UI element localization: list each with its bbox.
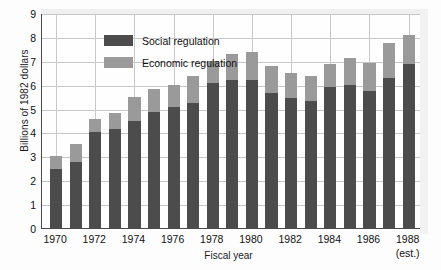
bar-segment-economic[interactable] xyxy=(128,97,140,121)
bar-segment-social[interactable] xyxy=(246,80,258,228)
bar-group[interactable] xyxy=(109,113,121,228)
bar-segment-social[interactable] xyxy=(168,107,180,228)
scan-artifact-right xyxy=(420,9,428,234)
bar-segment-economic[interactable] xyxy=(70,144,82,162)
x-tick-label: 1980 xyxy=(231,233,271,245)
bar-group[interactable] xyxy=(168,85,180,228)
y-tick-label: 3 xyxy=(6,151,36,163)
bar-segment-social[interactable] xyxy=(344,85,356,228)
legend-swatch-economic xyxy=(104,57,133,68)
bar-segment-economic[interactable] xyxy=(285,73,297,98)
legend-item[interactable]: Social regulation xyxy=(104,32,237,49)
x-tick-label: 1984 xyxy=(309,233,349,245)
y-tick-label: 0 xyxy=(6,223,36,235)
bar-segment-economic[interactable] xyxy=(363,63,375,90)
bar-group[interactable] xyxy=(226,54,238,228)
bar-group[interactable] xyxy=(383,43,395,228)
x-tick-label: 1978 xyxy=(192,233,232,245)
bar-segment-economic[interactable] xyxy=(344,58,356,84)
bar-segment-social[interactable] xyxy=(403,64,415,228)
bar-segment-social[interactable] xyxy=(109,129,121,228)
x-tick-label: 1982 xyxy=(270,233,310,245)
legend-label: Economic regulation xyxy=(142,57,237,69)
bar-group[interactable] xyxy=(207,61,219,228)
bar-group[interactable] xyxy=(70,144,82,228)
bar-segment-economic[interactable] xyxy=(305,76,317,101)
bar-segment-social[interactable] xyxy=(148,112,160,228)
y-tick-label: 7 xyxy=(6,56,36,68)
bar-segment-social[interactable] xyxy=(89,132,101,228)
y-tick-label: 4 xyxy=(6,127,36,139)
y-tick-label: 2 xyxy=(6,175,36,187)
bar-segment-economic[interactable] xyxy=(265,66,277,93)
x-tick-label: 1976 xyxy=(153,233,193,245)
bar-group[interactable] xyxy=(344,58,356,228)
bar-segment-social[interactable] xyxy=(70,162,82,228)
y-tick-label: 1 xyxy=(6,199,36,211)
bar-segment-social[interactable] xyxy=(226,80,238,228)
bar-group[interactable] xyxy=(246,52,258,228)
bar-segment-economic[interactable] xyxy=(324,64,336,87)
x-tick-label: 1986 xyxy=(348,233,388,245)
bar-group[interactable] xyxy=(285,73,297,228)
bar-segment-economic[interactable] xyxy=(246,52,258,79)
bar-group[interactable] xyxy=(187,76,199,228)
chart-legend: Social regulationEconomic regulation xyxy=(104,32,237,76)
bar-segment-social[interactable] xyxy=(363,91,375,228)
bar-segment-economic[interactable] xyxy=(109,113,121,129)
bar-group[interactable] xyxy=(50,156,62,228)
bar-segment-social[interactable] xyxy=(50,169,62,228)
plot-area: Social regulationEconomic regulation xyxy=(41,14,420,229)
bar-segment-social[interactable] xyxy=(128,121,140,229)
bar-group[interactable] xyxy=(128,97,140,228)
x-tick-label: 1988 xyxy=(388,233,428,245)
bar-group[interactable] xyxy=(324,64,336,228)
bar-segment-social[interactable] xyxy=(285,98,297,228)
bar-group[interactable] xyxy=(89,119,101,228)
bar-segment-economic[interactable] xyxy=(50,156,62,169)
x-axis-title: Fiscal year xyxy=(0,250,441,261)
bar-group[interactable] xyxy=(363,63,375,228)
bar-segment-social[interactable] xyxy=(207,83,219,228)
bar-group[interactable] xyxy=(403,35,415,229)
bar-segment-economic[interactable] xyxy=(403,35,415,65)
legend-swatch-social xyxy=(104,35,133,46)
bar-segment-social[interactable] xyxy=(324,87,336,228)
y-tick-label: 6 xyxy=(6,80,36,92)
bar-segment-social[interactable] xyxy=(187,103,199,228)
bar-segment-economic[interactable] xyxy=(383,43,395,78)
bar-segment-social[interactable] xyxy=(265,93,277,228)
x-tick-label: 1970 xyxy=(35,233,75,245)
gridline xyxy=(42,14,420,15)
x-axis-title-text: Fiscal year xyxy=(204,250,252,261)
bar-group[interactable] xyxy=(305,76,317,228)
y-tick-label: 9 xyxy=(6,8,36,20)
bar-group[interactable] xyxy=(148,89,160,228)
bar-segment-economic[interactable] xyxy=(168,85,180,108)
y-axis-tick-labels: 0123456789 xyxy=(3,14,36,229)
bar-segment-economic[interactable] xyxy=(148,89,160,112)
bar-segment-economic[interactable] xyxy=(187,76,199,102)
legend-label: Social regulation xyxy=(142,35,220,47)
y-tick-label: 8 xyxy=(6,32,36,44)
x-tick-label: 1974 xyxy=(113,233,153,245)
bar-segment-social[interactable] xyxy=(383,78,395,229)
bar-group[interactable] xyxy=(265,66,277,228)
bar-chart: Billions of 1982 dollars 0123456789 Soci… xyxy=(0,0,441,270)
x-tick-label: 1972 xyxy=(74,233,114,245)
legend-item[interactable]: Economic regulation xyxy=(104,54,237,71)
bar-segment-economic[interactable] xyxy=(89,119,101,132)
y-tick-label: 5 xyxy=(6,104,36,116)
bar-segment-social[interactable] xyxy=(305,101,317,228)
